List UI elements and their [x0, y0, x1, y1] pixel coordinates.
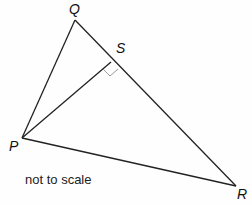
segment-ps: [22, 62, 111, 138]
segment-pq: [22, 20, 75, 138]
right-angle-mark: [103, 69, 118, 76]
label-q: Q: [69, 1, 80, 17]
label-s: S: [116, 40, 125, 56]
segment-qr: [75, 20, 236, 186]
label-r: R: [237, 186, 247, 202]
triangle-diagram: Q S P R not to scale: [0, 0, 252, 205]
label-p: P: [9, 138, 18, 154]
not-to-scale-note: not to scale: [25, 172, 92, 187]
